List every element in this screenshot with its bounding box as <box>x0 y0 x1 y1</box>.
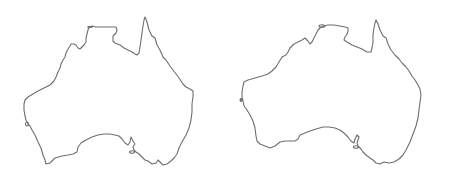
coastline-left <box>24 17 193 165</box>
islet-kangaroo-right <box>354 146 359 148</box>
map-comparison-canvas <box>0 0 455 179</box>
australia-outline-right <box>240 20 422 164</box>
australia-outline-left <box>24 17 193 165</box>
coastline-right <box>242 20 421 164</box>
islet-kangaroo-left <box>130 151 135 153</box>
islet-melville-left <box>87 26 93 28</box>
maps-svg <box>0 0 455 179</box>
islet-west-right <box>240 98 243 102</box>
